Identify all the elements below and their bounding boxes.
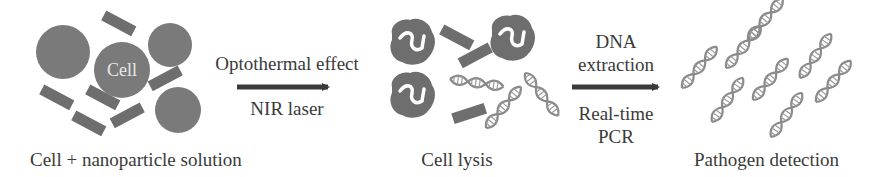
dna-strand	[679, 44, 721, 91]
dna-strand	[483, 84, 525, 131]
dna-strand	[449, 75, 504, 91]
stage-1-label: Cell + nanoparticle solution	[30, 150, 242, 169]
dna-strand	[723, 24, 765, 71]
stage-2-graphic	[390, 15, 561, 131]
stage-3-label: Pathogen detection	[694, 150, 839, 169]
stage-3-graphic	[679, 0, 855, 140]
arrow-1-label-above: Optothermal effect	[215, 54, 359, 73]
nanorod	[101, 11, 136, 37]
nanorod	[439, 25, 474, 51]
lysed-cell	[390, 19, 435, 65]
cell-circle	[155, 87, 201, 133]
diagram-canvas: Cell Cell + nanoparticle solution Optoth…	[0, 0, 888, 177]
arrow-2-label-below-1: Real-time	[579, 104, 654, 123]
arrow-2-label-below-2: PCR	[598, 127, 634, 146]
stage-2-label: Cell lysis	[421, 150, 492, 169]
dna-strand	[708, 75, 746, 124]
arrow-2-label-above-2: extraction	[578, 55, 654, 74]
dna-strand	[796, 31, 834, 80]
dna-strand	[813, 58, 855, 105]
arrow-1-label-below: NIR laser	[250, 99, 323, 118]
dna-strand	[767, 90, 805, 139]
nanorod	[71, 111, 106, 137]
lysed-cell	[490, 15, 535, 61]
nanorod	[451, 103, 487, 124]
cell-label: Cell	[107, 61, 137, 79]
dna-strand	[750, 56, 792, 103]
nanorod	[39, 85, 74, 111]
arrow-2-label-above-1: DNA	[595, 32, 636, 51]
cell-circle	[148, 23, 192, 67]
dna-strand	[521, 70, 561, 118]
cell-circle	[36, 25, 90, 79]
dna-strand	[745, 0, 787, 43]
lysed-cell	[390, 72, 435, 118]
